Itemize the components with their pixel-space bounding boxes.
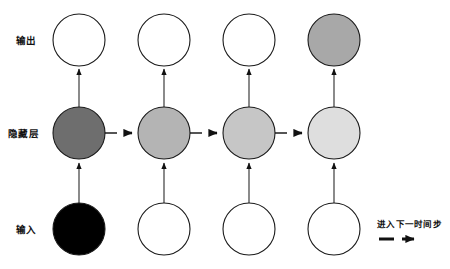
input-node-step-1[interactable] [53, 203, 105, 255]
output-node-step-2[interactable] [138, 14, 190, 66]
row-label-input: 输入 [16, 224, 37, 235]
input-node-step-4[interactable] [308, 203, 360, 255]
input-node-row [53, 203, 360, 255]
hidden-node-row [53, 107, 360, 159]
output-node-row [53, 14, 360, 66]
input-node-step-3[interactable] [223, 203, 275, 255]
row-label-hidden: 隐藏层 [8, 128, 39, 139]
diagram-canvas: 输出 隐藏层 输入 [0, 0, 450, 269]
legend: 进入下一时间步 [377, 219, 442, 239]
output-node-step-4[interactable] [308, 14, 360, 66]
hidden-node-step-1[interactable] [53, 107, 105, 159]
input-node-step-2[interactable] [138, 203, 190, 255]
rnn-unrolled-diagram: 输出 隐藏层 输入 [0, 0, 450, 269]
hidden-node-step-2[interactable] [138, 107, 190, 159]
output-node-step-1[interactable] [53, 14, 105, 66]
output-node-step-3[interactable] [223, 14, 275, 66]
legend-label: 进入下一时间步 [377, 219, 442, 229]
row-label-output: 输出 [16, 35, 37, 46]
hidden-node-step-4[interactable] [308, 107, 360, 159]
hidden-node-step-3[interactable] [223, 107, 275, 159]
hidden-to-output-connectors [79, 69, 334, 107]
input-to-hidden-connectors [79, 163, 334, 203]
